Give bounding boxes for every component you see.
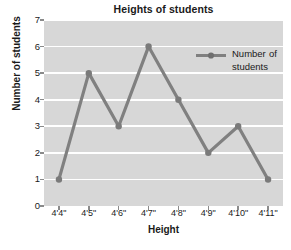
y-axis-tick-mark <box>40 179 44 180</box>
y-axis-tick-mark <box>40 72 44 73</box>
x-axis-tick-mark <box>237 206 238 210</box>
y-axis-tick-label: 6 <box>6 42 40 52</box>
y-axis-tick-label: 2 <box>6 148 40 158</box>
data-point <box>115 123 121 129</box>
legend-line-marker-icon <box>196 48 226 61</box>
y-axis-tick-mark <box>40 205 44 206</box>
x-axis-tick-mark <box>88 206 89 210</box>
y-axis-tick-label: 0 <box>6 201 40 211</box>
y-axis-tick-mark <box>40 126 44 127</box>
chart-title: Heights of students <box>44 3 283 15</box>
x-axis-tick-mark <box>208 206 209 210</box>
y-axis-tick-mark <box>40 152 44 153</box>
line-chart: Heights of students Number of students 0… <box>0 0 291 250</box>
x-axis-tick-label: 4'11" <box>248 209 288 218</box>
chart-legend: Number of students <box>196 48 290 73</box>
data-point <box>235 123 241 129</box>
y-axis-tick-label: 1 <box>6 174 40 184</box>
y-axis-tick-label: 3 <box>6 121 40 131</box>
y-axis-tick-label: 7 <box>6 15 40 25</box>
y-axis-tick-labels: 01234567 <box>4 20 40 206</box>
x-axis-title: Height <box>44 224 283 235</box>
x-axis-tick-labels: 4'4"4'5"4'6"4'7"4'8"4'9"4'10"4'11" <box>44 209 283 223</box>
x-axis-tick-mark <box>148 206 149 210</box>
y-axis-tick-mark <box>40 19 44 20</box>
x-axis-tick-mark <box>118 206 119 210</box>
y-axis-tick-mark <box>40 46 44 47</box>
data-point <box>175 97 181 103</box>
data-point <box>56 176 62 182</box>
x-axis-tick-mark <box>267 206 268 210</box>
data-point <box>145 43 151 49</box>
data-point <box>265 176 271 182</box>
y-axis-tick-label: 5 <box>6 68 40 78</box>
x-axis-tick-mark <box>58 206 59 210</box>
y-axis-tick-label: 4 <box>6 95 40 105</box>
data-point <box>205 150 211 156</box>
data-point <box>86 70 92 76</box>
legend-entry-label: Number of students <box>232 48 290 73</box>
y-axis-tick-mark <box>40 99 44 100</box>
x-axis-tick-mark <box>178 206 179 210</box>
